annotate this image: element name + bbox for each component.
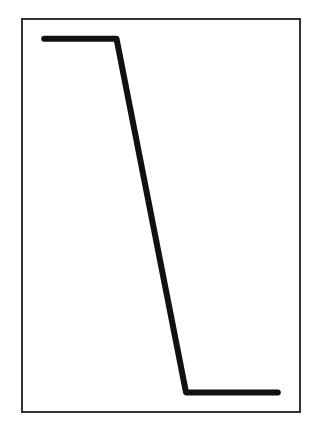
series-line-step-down (44, 39, 278, 393)
series-layer (44, 39, 278, 393)
plot-frame (22, 19, 300, 412)
chart (0, 0, 314, 433)
